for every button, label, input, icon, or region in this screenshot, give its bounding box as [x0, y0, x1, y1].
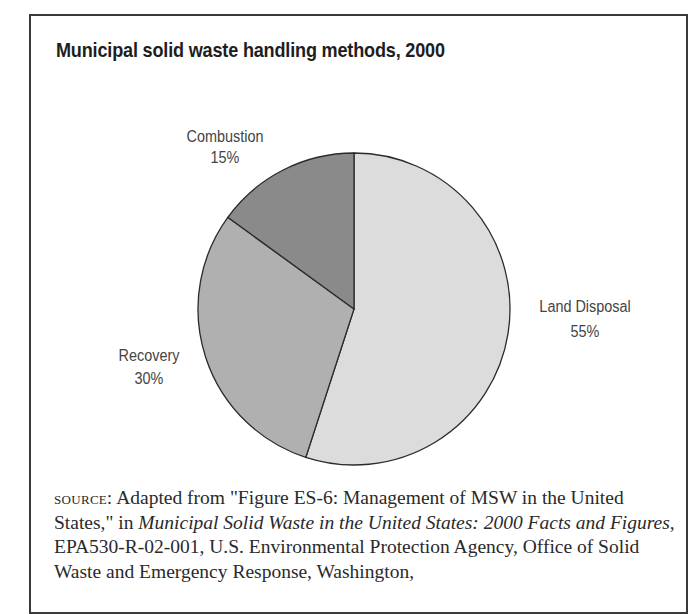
label-combustion-name: Combustion: [185, 126, 266, 147]
label-land-disposal-pct: 55%: [531, 321, 639, 342]
label-recovery: Recovery 30%: [113, 345, 185, 389]
source-note: source: Adapted from "Figure ES-6: Manag…: [54, 486, 684, 584]
source-publication-title: Municipal Solid Waste in the United Stat…: [138, 512, 670, 533]
label-recovery-pct: 30%: [113, 368, 185, 389]
label-recovery-name: Recovery: [113, 345, 185, 366]
label-combustion: Combustion 15%: [185, 126, 266, 168]
label-land-disposal-name: Land Disposal: [531, 296, 639, 317]
label-combustion-pct: 15%: [185, 147, 266, 168]
source-label: source:: [54, 488, 112, 508]
label-land-disposal: Land Disposal 55%: [531, 296, 639, 342]
